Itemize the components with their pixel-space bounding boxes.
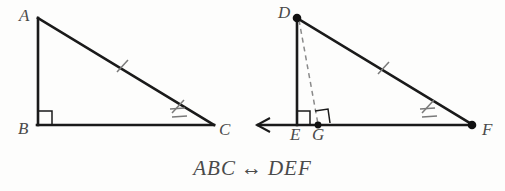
- segment-dg-dashed: [299, 20, 318, 124]
- vertex-label-c: C: [219, 121, 230, 138]
- geometry-figure: A B C D E F G ABC↔DEF: [0, 0, 505, 191]
- vertex-dot-f: [468, 121, 477, 130]
- segment-ac: [38, 18, 214, 125]
- vertex-dot-d: [293, 14, 302, 23]
- correspondence-arrow-icon: ↔: [236, 156, 268, 180]
- triangle-def: [257, 14, 476, 132]
- vertex-label-f: F: [482, 121, 492, 138]
- figure-caption: ABC↔DEF: [0, 156, 505, 181]
- triangle-abc: [37, 18, 214, 125]
- right-angle-marker-e: [297, 111, 310, 125]
- vertex-label-e: E: [290, 126, 300, 143]
- right-angle-marker-b: [38, 111, 52, 125]
- vertex-label-b: B: [18, 120, 28, 137]
- vertex-label-g: G: [312, 126, 324, 143]
- caption-right-triangle: DEF: [268, 156, 312, 180]
- caption-left-triangle: ABC: [193, 156, 236, 180]
- vertex-label-a: A: [19, 7, 29, 24]
- vertex-label-d: D: [278, 4, 290, 21]
